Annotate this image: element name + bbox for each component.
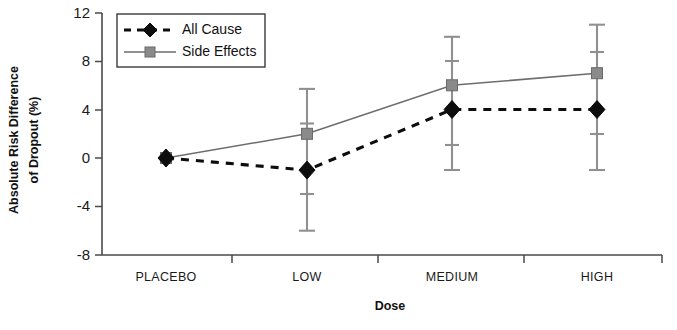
y-tick-label-neg8: -8 [77,246,90,263]
chart-figure: Absolute Risk Difference of Dropout (%) … [0,0,677,330]
series-markers-all-cause [158,101,605,180]
error-bars [299,25,605,231]
y-axis-title-line1: Absolute Risk Difference [7,66,21,214]
y-tick-label-0: 0 [82,149,90,166]
data-point-all-cause-medium [444,101,460,119]
chart-legend: All Cause Side Effects [117,14,265,67]
x-tick-label-medium: MEDIUM [426,270,479,284]
series-line-side-effects [166,73,597,158]
legend-label-all-cause: All Cause [182,21,242,37]
legend-label-side-effects: Side Effects [182,43,256,59]
y-tick-label-neg4: -4 [77,197,90,214]
data-point-side-effects-medium [447,80,458,91]
y-axis-ticks: 12 8 4 0 -4 -8 [73,4,102,263]
data-point-all-cause-high [589,101,605,119]
y-axis-title-line2: of Dropout (%) [27,97,41,184]
x-tick-label-high: HIGH [581,270,613,284]
legend-marker-square [145,47,155,57]
data-point-side-effects-high [592,68,603,79]
series-markers-side-effects [161,68,603,164]
error-bar-high [589,25,605,170]
x-axis-title: Dose [375,299,406,313]
data-point-all-cause-placebo [158,149,174,167]
y-tick-label-8: 8 [82,52,90,69]
data-point-all-cause-low [299,161,315,179]
error-bar-low [299,89,315,231]
x-axis-ticks: PLACEBO LOW MEDIUM HIGH [135,255,662,284]
series-line-all-cause [166,110,597,171]
chart-svg: Absolute Risk Difference of Dropout (%) … [0,0,677,330]
x-tick-label-placebo: PLACEBO [135,270,196,284]
y-axis-title: Absolute Risk Difference of Dropout (%) [7,66,41,214]
x-tick-label-low: LOW [292,270,321,284]
y-tick-label-12: 12 [73,4,90,21]
data-point-side-effects-low [302,128,313,139]
y-tick-label-4: 4 [82,101,90,118]
